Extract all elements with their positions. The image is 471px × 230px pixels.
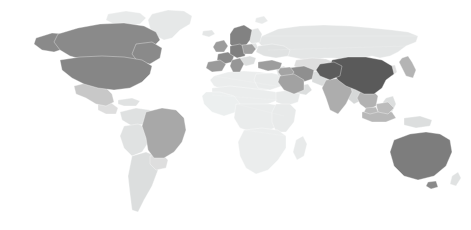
world-map bbox=[0, 0, 471, 230]
world-choropleth-figure bbox=[0, 0, 471, 230]
